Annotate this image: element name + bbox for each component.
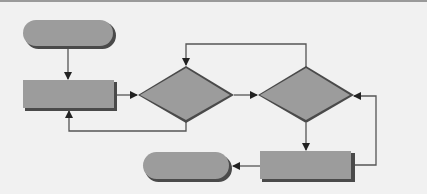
- node-end-terminator[interactable]: [143, 152, 232, 182]
- node-decision-1[interactable]: [138, 66, 234, 123]
- node-process-1[interactable]: [23, 80, 117, 111]
- edge-decision-1-to-process-1: [69, 111, 186, 131]
- edge-decision-2-to-decision-1: [186, 44, 306, 67]
- node-process-2[interactable]: [260, 151, 355, 182]
- flowchart-canvas: [0, 0, 427, 194]
- node-decision-2[interactable]: [258, 66, 354, 123]
- edge-process-2-to-decision-2: [354, 96, 376, 165]
- node-start-terminator[interactable]: [23, 20, 116, 49]
